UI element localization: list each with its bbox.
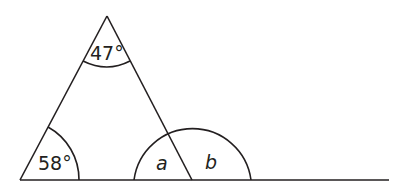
apex-angle-label: 47°: [90, 44, 124, 63]
triangle-diagram: 47° 58° a b: [0, 0, 403, 194]
angle-a-label: a: [156, 154, 168, 173]
triangle-right-side: [107, 16, 192, 180]
semicircle-arc: [134, 129, 251, 180]
angle-b-label: b: [205, 153, 217, 172]
left-angle-label: 58°: [38, 154, 72, 173]
